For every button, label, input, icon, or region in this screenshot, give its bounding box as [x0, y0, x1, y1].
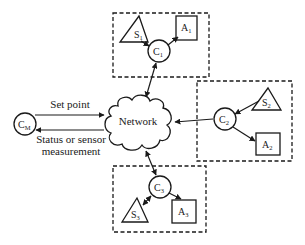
subsystem-3: S3 A3 C3: [113, 166, 206, 232]
subsystem-1: S1 A1 C1: [113, 13, 209, 77]
set-point-label: Set point: [50, 98, 89, 110]
link-network-c3: [146, 151, 156, 175]
arrow-s3-c3: [143, 196, 151, 205]
arrow-c3-to-a3: [169, 193, 181, 199]
arrow-c2-to-a2: [233, 127, 255, 141]
status-label-line2: measurement: [42, 145, 101, 157]
link-network-c1: [146, 63, 156, 97]
link-c2-to-network: [175, 119, 213, 122]
status-label-line1: Status or sensor: [36, 133, 106, 145]
master-controller: CM: [14, 113, 36, 135]
arrow-c1-to-a1: [168, 37, 178, 45]
subsystem-2: S2 A2 C2: [197, 81, 292, 161]
network-control-diagram: S1 A1 C1 S2 A2 C2 S3 A3 C3 Network: [0, 0, 305, 245]
network-label: Network: [119, 115, 158, 127]
network-cloud: Network: [105, 95, 171, 150]
